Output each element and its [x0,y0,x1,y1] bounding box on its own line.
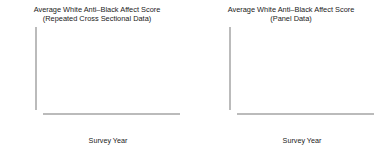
chart-title-left: Average White Anti–Black Affect Score [34,5,161,14]
x-axis-label-right: Survey Year [283,136,322,145]
chart-svg-right: Average White Anti–Black Affect Score (P… [194,0,388,151]
chart-subtitle-left: (Repeated Cross Sectional Data) [43,14,151,23]
x-axis-label-left: Survey Year [89,136,128,145]
figure-root: Average White Anti–Black Affect Score (R… [0,0,388,151]
series-label-anes-right: ANES [194,0,213,1]
chart-panel-left: Average White Anti–Black Affect Score (R… [0,0,194,151]
chart-title-right: Average White Anti–Black Affect Score [228,5,355,14]
chart-panel-right: Average White Anti–Black Affect Score (P… [194,0,388,151]
chart-subtitle-right: (Panel Data) [270,14,312,23]
chart-svg-left: Average White Anti–Black Affect Score (R… [0,0,194,151]
series-label-anes-left: ANES [0,0,19,1]
